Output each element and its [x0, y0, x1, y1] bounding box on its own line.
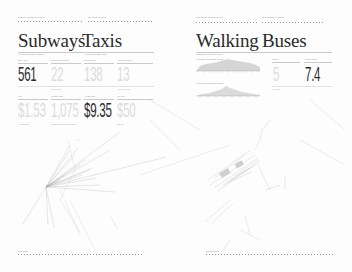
kicker-walking: Pedestrian counts overview [196, 16, 223, 19]
divider [18, 21, 84, 22]
stat-value-daily-rides: 561 [18, 63, 36, 85]
divider [88, 21, 154, 22]
weekday-histogram [196, 56, 260, 76]
divider [18, 86, 154, 87]
stat-footnote: Avg wait [272, 88, 280, 91]
stat-value-trips-per-hour: 138 [84, 63, 102, 85]
weekend-histogram [196, 84, 260, 100]
kicker-subways: Subway ridership overview [18, 16, 44, 19]
stat-value-fare: $1.53 [18, 99, 46, 121]
footer-rule [206, 254, 334, 255]
section-title-taxis: Taxis [82, 31, 122, 51]
kicker-taxis: Taxi trips overview [88, 16, 106, 19]
stat-footnote: Lines active [51, 88, 62, 91]
stat-footnote: Top fare [117, 123, 124, 126]
stat-value-avg-minutes: 13 [117, 63, 129, 85]
footer-label-right: Street network [206, 250, 219, 253]
section-title-buses: Buses [262, 31, 306, 51]
stat-value-max-fare: $50 [117, 99, 135, 121]
divider [196, 22, 258, 23]
stat-footnote: Riders using unlimited cards [51, 123, 76, 126]
stat-value-monthly-pass: 1,075 [51, 99, 79, 121]
stat-footnote: Average fare [18, 123, 29, 126]
left-page: Subway ridership overview Taxi trips ove… [0, 0, 176, 272]
magazine-spread: Subway ridership overview Taxi trips ove… [0, 0, 352, 272]
section-title-walking: Walking [196, 31, 259, 51]
section-title-subways: Subways [18, 31, 85, 51]
subtitle-subways: Average weekday ridership [18, 53, 45, 56]
footer-rule [18, 254, 144, 255]
stat-value-average-speed: 7.4 [305, 63, 320, 85]
stat-label: Average speed [304, 58, 317, 61]
kicker-buses: Bus ridership overview [262, 16, 284, 19]
subtitle-taxis: Average weekday trips [84, 53, 106, 56]
stat-value-average-fare: $9.35 [84, 99, 112, 121]
divider [262, 22, 324, 23]
stat-footnote: Avg trip length [117, 88, 130, 91]
stat-value-stations: 22 [51, 63, 63, 85]
divider [272, 86, 332, 87]
stat-value-routes: 5 [273, 63, 279, 85]
footer-label-left: Trip origins [18, 250, 28, 253]
right-page: Pedestrian counts overview Bus ridership… [176, 0, 352, 272]
stat-label: Routes [272, 58, 278, 61]
